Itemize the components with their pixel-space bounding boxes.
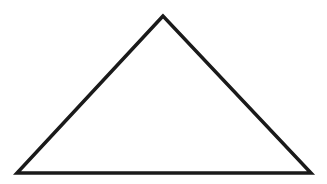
diagram-canvas [0, 0, 327, 184]
triangle-figure [0, 0, 327, 184]
triangle-shape [17, 16, 311, 173]
